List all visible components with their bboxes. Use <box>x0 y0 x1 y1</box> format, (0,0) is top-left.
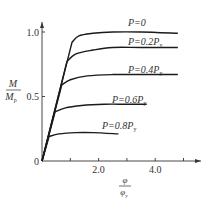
curve-label: P=0.4Py <box>127 64 162 76</box>
y-axis-arrow-icon <box>40 22 44 28</box>
y-axis-label: M Mp <box>4 78 21 103</box>
y-label-numerator: M <box>8 78 18 89</box>
curve-p-0-8py <box>42 132 118 161</box>
x-tick-label: 4.0 <box>149 164 162 175</box>
curves <box>42 32 178 161</box>
x-label-denominator: φy <box>120 187 128 198</box>
x-tick-label: 2.0 <box>92 164 105 175</box>
x-axis-arrow-icon <box>195 159 201 163</box>
curve-label: P=0 <box>127 17 146 28</box>
curve-p-0 <box>42 32 178 161</box>
chart-canvas: 2.04.000.51.0 P=0P=0.2PyP=0.4PyP=0.6PyP=… <box>0 0 209 201</box>
axes <box>40 22 201 163</box>
y-tick-label: 0.5 <box>27 91 40 102</box>
x-label-numerator: φ <box>123 175 128 185</box>
moment-curvature-chart: 2.04.000.51.0 P=0P=0.2PyP=0.4PyP=0.6PyP=… <box>0 0 209 201</box>
y-tick-label: 1.0 <box>27 27 40 38</box>
curve-p-0-4py <box>42 74 178 161</box>
x-axis-label: φ φy <box>119 175 131 198</box>
curve-label: P=0.6Py <box>111 94 146 106</box>
y-label-denominator: Mp <box>4 91 16 103</box>
curve-label: P=0.8Py <box>101 120 136 132</box>
curve-label: P=0.2Py <box>127 36 162 48</box>
y-tick-label: 0 <box>34 156 39 167</box>
